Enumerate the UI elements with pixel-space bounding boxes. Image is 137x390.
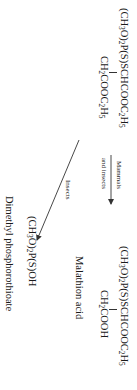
malathion-acid-name: Malathion acid	[74, 256, 85, 319]
phosphorothioate-name: Dimethyl phosphorothioate	[4, 196, 15, 311]
insects-label: Insects	[64, 180, 71, 199]
malathion-acid-formula-line1: (CH3O)2P(S)SCHCOOC2H5	[119, 246, 130, 366]
malathion-acid-bond-line	[109, 309, 117, 310]
malathion-acid-formula-line2: CH2COOH	[99, 290, 110, 338]
reaction-diagram: (CH3O)2P(S)SCHCOOC2H5 CH2COOC2H5 Mammals…	[0, 0, 137, 390]
phosphorothioate-formula: (CH3O)2P(S)OH	[27, 216, 38, 286]
insects-arrow	[37, 140, 79, 240]
